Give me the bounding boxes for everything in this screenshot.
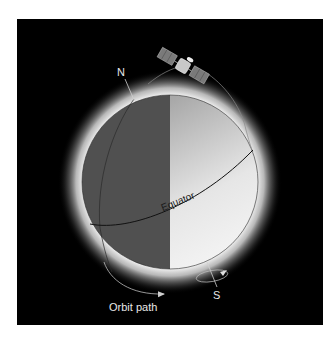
north-label: N (117, 66, 125, 78)
orbit-label: Orbit path (109, 301, 157, 313)
south-label: S (213, 289, 220, 301)
polar-orbit-diagram: Equator N S Orbit path (0, 0, 336, 342)
